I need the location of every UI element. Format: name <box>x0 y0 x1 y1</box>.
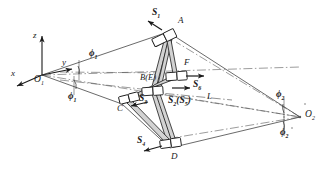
s1-subscript: 1 <box>157 13 160 19</box>
s5-paren-open: (S <box>176 95 184 105</box>
s5-paren-close: ) <box>188 95 191 105</box>
pole-label-o2: O2 <box>305 110 315 122</box>
axis-label-y: y <box>62 58 66 67</box>
screw-label-s4: S4 <box>137 136 145 148</box>
axis-label-z: z <box>33 31 37 40</box>
angle-label-phi2-upper: ϕ2 <box>276 90 284 102</box>
axis-label-x: x <box>11 69 15 78</box>
phi1-upper-subscript: 1 <box>95 54 98 60</box>
joint-sleeves <box>118 28 187 149</box>
s4-arrow <box>144 146 162 151</box>
phi2-upper-subscript: 2 <box>282 95 285 101</box>
line-label-l: L <box>207 92 212 101</box>
angle-label-phi1-lower: ϕ1 <box>68 92 76 104</box>
origin-letter: O <box>34 74 41 84</box>
joint-label-d: D <box>171 152 178 161</box>
s4-subscript: 4 <box>142 141 145 147</box>
s6-subscript: 6 <box>198 85 201 91</box>
origin-label-o1: O1 <box>34 75 44 87</box>
screw-label-s6: S6 <box>193 80 201 92</box>
joint-label-c: C <box>117 104 123 113</box>
joint-label-be: B(E) <box>140 73 156 82</box>
pole-subscript: 2 <box>312 115 315 121</box>
joint-label-a: A <box>178 16 184 25</box>
screw-label-s3: S3 <box>139 94 147 106</box>
linkage-diagram-svg <box>0 0 330 175</box>
screw-label-s1: S1 <box>152 8 160 20</box>
angle-label-phi2-lower: ϕ2 <box>280 128 288 140</box>
s1-arrow <box>148 21 162 30</box>
phi2-lower-subscript: 2 <box>286 133 289 139</box>
joint-label-f: F <box>184 58 190 67</box>
phi1-lower-subscript: 1 <box>74 97 77 103</box>
angle-label-phi1-upper: ϕ1 <box>89 49 97 61</box>
angle-arcs-o1 <box>74 60 79 95</box>
pole-letter: O <box>305 109 312 119</box>
s3-subscript: 3 <box>144 99 147 105</box>
origin-subscript: 1 <box>41 80 44 86</box>
figure-canvas: z y x O1 O2 ϕ1 ϕ1 ϕ2 ϕ2 A B(E) C D F S1 … <box>0 0 330 175</box>
screw-label-s2-s5: S2(S5) <box>168 96 191 108</box>
